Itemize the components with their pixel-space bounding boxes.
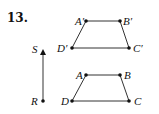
preimage-trapezoid: A B C D (60, 69, 142, 107)
point-d-prime (70, 46, 74, 50)
label-d-prime: D′ (56, 42, 68, 54)
image-trapezoid: A′ B′ C′ D′ (56, 15, 143, 54)
point-b-prime (118, 19, 122, 23)
label-a-prime: A′ (74, 15, 85, 27)
arrowhead-icon (40, 49, 46, 55)
label-d: D (60, 95, 69, 107)
label-c-prime: C′ (133, 42, 143, 54)
label-s: S (32, 43, 38, 55)
point-d (70, 99, 74, 103)
point-r (41, 99, 45, 103)
label-b-prime: B′ (123, 15, 133, 27)
translation-diagram: A′ B′ C′ D′ A B C D S R (0, 0, 159, 114)
point-a (84, 73, 88, 77)
label-r: R (30, 95, 38, 107)
point-c-prime (127, 46, 131, 50)
label-b: B (124, 69, 131, 81)
label-c: C (134, 95, 142, 107)
translation-vector: S R (30, 43, 46, 107)
point-a-prime (84, 19, 88, 23)
point-c (127, 99, 131, 103)
label-a: A (75, 69, 83, 81)
point-b (118, 73, 122, 77)
